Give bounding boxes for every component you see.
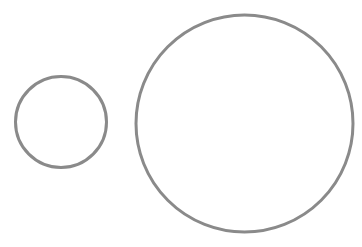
diagram-canvas (0, 0, 362, 247)
